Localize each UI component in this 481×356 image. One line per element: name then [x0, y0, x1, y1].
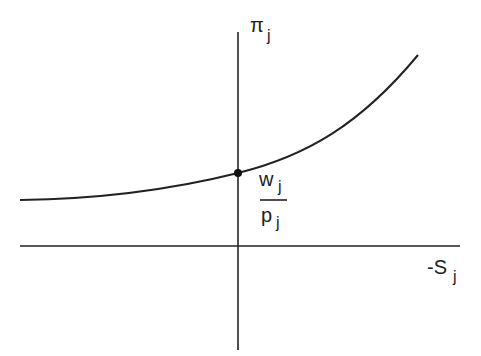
y-axis-subscript: j [267, 27, 271, 45]
y-axis-label: π [250, 14, 264, 37]
x-axis-label: -S [427, 256, 447, 279]
pi-symbol: π [250, 14, 264, 36]
pi-curve [20, 55, 418, 200]
w-subscript-j: j [278, 178, 282, 195]
w-symbol: w [259, 168, 273, 190]
x-subscript-j: j [453, 268, 457, 285]
neg-s-symbol: -S [427, 256, 447, 278]
intercept-numerator: w [259, 168, 273, 191]
intercept-numerator-subscript: j [278, 178, 282, 196]
y-subscript-j: j [267, 27, 271, 44]
intercept-point [234, 169, 242, 177]
intercept-denominator-subscript: j [276, 214, 280, 232]
x-axis-subscript: j [453, 268, 457, 286]
p-subscript-j: j [276, 214, 280, 231]
diagram-canvas [0, 0, 481, 356]
p-symbol: p [261, 204, 272, 226]
intercept-denominator: p [261, 204, 272, 227]
